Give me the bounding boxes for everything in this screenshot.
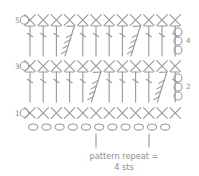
single-crochet-symbol	[64, 61, 75, 72]
double-crochet-symbol	[131, 72, 140, 102]
double-crochet-symbol	[171, 72, 180, 102]
single-crochet-symbol	[64, 108, 75, 119]
double-crochet-symbol	[79, 26, 88, 56]
single-crochet-symbol	[157, 15, 168, 26]
double-crochet-symbol	[171, 26, 180, 56]
single-crochet-symbol	[51, 108, 62, 119]
chain-symbol	[134, 124, 143, 130]
double-crochet-symbol	[39, 26, 48, 56]
chain-symbol	[161, 124, 170, 130]
single-crochet-symbol	[78, 15, 89, 26]
cluster-symbol	[154, 72, 167, 102]
chain-symbol	[68, 124, 77, 130]
single-crochet-symbol	[157, 61, 168, 72]
single-crochet-symbol	[117, 108, 128, 119]
chart-row-2-double-crochet	[26, 72, 180, 102]
single-crochet-symbol	[51, 15, 62, 26]
double-crochet-symbol	[158, 26, 167, 56]
caption-line-2: 4 sts	[114, 162, 134, 172]
double-crochet-symbol	[105, 72, 114, 102]
single-crochet-symbol	[117, 61, 128, 72]
single-crochet-symbol	[78, 108, 89, 119]
cluster-symbol	[127, 26, 140, 56]
foundation-chain-row	[29, 124, 170, 130]
double-crochet-symbol	[118, 72, 127, 102]
row-number-right: 2	[186, 82, 191, 91]
single-crochet-symbol	[91, 15, 102, 26]
row-number-right: 4	[186, 36, 191, 45]
single-crochet-symbol	[170, 15, 181, 26]
chart-row-3-single-crochet	[25, 61, 181, 72]
chain-symbol	[147, 124, 156, 130]
single-crochet-symbol	[64, 15, 75, 26]
single-crochet-symbol	[144, 61, 155, 72]
single-crochet-symbol	[144, 15, 155, 26]
single-crochet-symbol	[38, 15, 49, 26]
single-crochet-symbol	[91, 108, 102, 119]
double-crochet-symbol	[65, 72, 74, 102]
single-crochet-symbol	[144, 108, 155, 119]
double-crochet-symbol	[145, 26, 154, 56]
row-number-left: 1	[15, 109, 20, 118]
double-crochet-symbol	[79, 72, 88, 102]
single-crochet-symbol	[78, 61, 89, 72]
double-crochet-symbol	[39, 72, 48, 102]
single-crochet-symbol	[104, 15, 115, 26]
single-crochet-symbol	[51, 61, 62, 72]
double-crochet-symbol	[118, 26, 127, 56]
chain-symbol	[121, 124, 130, 130]
chain-symbol	[55, 124, 64, 130]
single-crochet-symbol	[170, 61, 181, 72]
chart-caption: pattern repeat =4 sts	[90, 151, 159, 172]
chain-symbol	[29, 124, 38, 130]
chain-symbol	[42, 124, 51, 130]
single-crochet-symbol	[130, 15, 141, 26]
row-number-left: 5	[15, 16, 20, 25]
single-crochet-symbol	[38, 108, 49, 119]
double-crochet-symbol	[52, 72, 61, 102]
repeat-markers	[96, 134, 149, 147]
chain-symbol	[95, 124, 104, 130]
chart-row-1-single-crochet	[25, 108, 181, 119]
crochet-chart-figure: 53142pattern repeat =4 sts	[0, 0, 199, 176]
cluster-symbol	[61, 26, 74, 56]
double-crochet-symbol	[26, 26, 35, 56]
double-crochet-symbol	[92, 26, 101, 56]
chain-symbol	[20, 62, 28, 70]
chain-symbol	[20, 109, 28, 117]
chain-symbol	[81, 124, 90, 130]
chart-row-4-double-crochet	[26, 26, 180, 56]
single-crochet-symbol	[91, 61, 102, 72]
single-crochet-symbol	[38, 61, 49, 72]
chain-symbol	[20, 16, 28, 24]
single-crochet-symbol	[170, 108, 181, 119]
single-crochet-symbol	[104, 61, 115, 72]
double-crochet-symbol	[26, 72, 35, 102]
single-crochet-symbol	[117, 15, 128, 26]
single-crochet-symbol	[130, 61, 141, 72]
chart-row-5-single-crochet	[25, 15, 181, 26]
double-crochet-symbol	[105, 26, 114, 56]
row-labels-left: 531	[15, 16, 29, 118]
double-crochet-symbol	[52, 26, 61, 56]
row-number-left: 3	[15, 62, 20, 71]
crochet-chart-canvas: 53142pattern repeat =4 sts	[0, 0, 199, 176]
chain-symbol	[108, 124, 117, 130]
cluster-symbol	[88, 72, 101, 102]
caption-line-1: pattern repeat =	[90, 151, 159, 161]
single-crochet-symbol	[104, 108, 115, 119]
single-crochet-symbol	[157, 108, 168, 119]
double-crochet-symbol	[145, 72, 154, 102]
single-crochet-symbol	[130, 108, 141, 119]
